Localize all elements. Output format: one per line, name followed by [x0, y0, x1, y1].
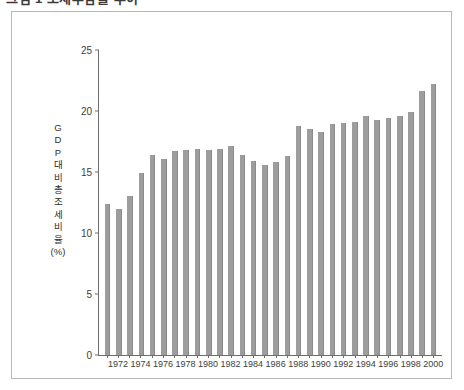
x-axis-tick-label: 1980 [198, 359, 218, 369]
bar [183, 150, 189, 355]
bar-slot [259, 50, 270, 355]
x-axis-tick-mark [388, 355, 389, 358]
x-axis-tick-mark [287, 355, 288, 358]
x-axis-tick-label: 1990 [311, 359, 331, 369]
x-axis-tick-mark [355, 355, 356, 358]
y-axis-label-char: (%) [50, 246, 66, 258]
bar [161, 159, 167, 355]
bar [228, 146, 234, 355]
bar [419, 91, 425, 355]
bar-slot [102, 50, 113, 355]
x-axis-tick-mark [264, 355, 265, 358]
bar [363, 116, 369, 355]
x-axis-labels: 1972197419761978198019821984198619881990… [98, 359, 442, 375]
bar-slot [158, 50, 169, 355]
bar [150, 155, 156, 355]
bar [285, 156, 291, 355]
x-axis-tick-mark [422, 355, 423, 358]
bar-slot [327, 50, 338, 355]
bar-slot [237, 50, 248, 355]
bar [105, 204, 111, 355]
y-axis-label-char: P [50, 147, 66, 159]
bar-slot [214, 50, 225, 355]
y-axis-label-char: 세 [50, 209, 66, 221]
x-axis-tick-mark [276, 355, 277, 358]
y-axis-label-char: 조 [50, 196, 66, 208]
bar [217, 149, 223, 355]
bar-slot [383, 50, 394, 355]
y-axis-label-char: 율 [50, 234, 66, 246]
figure-title-strip: 그림 1 조세부담률 추이 [0, 0, 464, 9]
y-axis-label-char: G [50, 122, 66, 134]
x-axis-tick-mark [253, 355, 254, 358]
x-axis-tick-label: 1982 [221, 359, 241, 369]
bar [273, 162, 279, 355]
y-axis-label-char: 비 [50, 172, 66, 184]
x-axis-tick-mark [163, 355, 164, 358]
x-axis-tick-label: 2000 [423, 359, 443, 369]
x-axis-tick-mark [332, 355, 333, 358]
bar [116, 209, 122, 355]
bar-slot [293, 50, 304, 355]
bar [386, 118, 392, 355]
bar-slot [169, 50, 180, 355]
plot-area: 0510152025 [98, 50, 442, 356]
x-axis-tick-mark [231, 355, 232, 358]
bar-slot [349, 50, 360, 355]
bar-slot [338, 50, 349, 355]
bar-slot [113, 50, 124, 355]
bar-slot [124, 50, 135, 355]
bar-series [99, 50, 442, 355]
x-axis-tick-mark [140, 355, 141, 358]
bar-slot [360, 50, 371, 355]
x-axis-tick-label: 1994 [356, 359, 376, 369]
x-axis-tick-label: 1998 [401, 359, 421, 369]
x-axis-tick-mark [129, 355, 130, 358]
y-axis-label-char: 비 [50, 221, 66, 233]
bar [251, 161, 257, 355]
x-axis-tick-mark [152, 355, 153, 358]
bar-slot [428, 50, 439, 355]
x-axis-tick-mark [411, 355, 412, 358]
x-axis-tick-mark [208, 355, 209, 358]
bar [172, 151, 178, 355]
bar-slot [315, 50, 326, 355]
x-axis-tick-label: 1986 [266, 359, 286, 369]
x-axis-tick-label: 1974 [130, 359, 150, 369]
x-axis-tick-mark [377, 355, 378, 358]
x-axis-tick-mark [219, 355, 220, 358]
x-axis-tick-label: 1972 [108, 359, 128, 369]
x-axis-tick-mark [366, 355, 367, 358]
y-axis-tick-label: 5 [86, 289, 99, 300]
bar [374, 120, 380, 355]
x-axis-tick-mark [433, 355, 434, 358]
x-axis-tick-label: 1992 [333, 359, 353, 369]
bar [330, 124, 336, 355]
x-axis-tick-label: 1978 [175, 359, 195, 369]
bar-slot [405, 50, 416, 355]
bar [206, 150, 212, 355]
bar [127, 196, 133, 355]
x-axis-tick-mark [400, 355, 401, 358]
x-axis-tick-mark [321, 355, 322, 358]
y-axis-tick-label: 25 [81, 45, 99, 56]
bar [341, 123, 347, 355]
y-axis-tick-label: 15 [81, 167, 99, 178]
bar-slot [136, 50, 147, 355]
bar [262, 165, 268, 355]
figure-frame: GDP대비총조세비율(%) 0510152025 197219741976197… [11, 11, 452, 379]
x-axis-tick-mark [174, 355, 175, 358]
bar [408, 112, 414, 355]
bar-slot [248, 50, 259, 355]
bar-slot [203, 50, 214, 355]
x-axis-tick-mark [107, 355, 108, 358]
x-axis-tick-mark [298, 355, 299, 358]
y-axis-label: GDP대비총조세비율(%) [50, 122, 66, 258]
bar [139, 173, 145, 355]
bar [195, 149, 201, 355]
bar-slot [372, 50, 383, 355]
x-axis-tick-mark [118, 355, 119, 358]
x-axis-tick-mark [343, 355, 344, 358]
y-axis-label-char: D [50, 134, 66, 146]
bar-slot [282, 50, 293, 355]
